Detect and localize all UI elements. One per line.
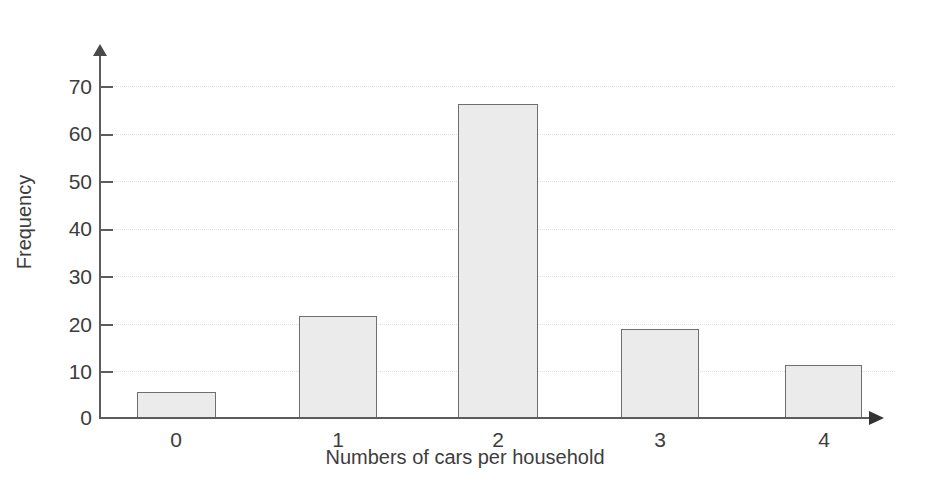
y-tick-label-20: 20 [32,314,92,335]
arrow-up-icon [93,44,107,56]
y-tick-label-10: 10 [32,361,92,382]
y-axis-line [99,52,101,419]
y-tick-30 [101,276,113,278]
y-tick-50 [101,181,113,183]
bar-1 [299,316,377,418]
y-tick-label-0: 0 [32,407,92,428]
x-axis-title: Numbers of cars per household [0,445,930,469]
y-tick-40 [101,229,113,231]
gridline-70 [100,86,895,87]
bar-4 [785,365,862,418]
y-tick-label-30: 30 [32,266,92,287]
bar-3 [621,329,699,418]
y-tick-0 [101,417,113,419]
y-tick-label-50: 50 [32,171,92,192]
arrow-right-icon [869,411,884,425]
y-tick-label-60: 60 [32,123,92,144]
y-tick-70 [101,86,113,88]
x-axis-line [99,417,875,419]
bar-2 [458,104,538,418]
y-tick-60 [101,134,113,136]
bar-0 [137,392,216,418]
y-tick-10 [101,371,113,373]
bar-chart: 0 10 20 30 40 50 60 70 0 1 2 3 4 Numbers… [0,0,930,497]
y-axis-title: Frequency [14,162,34,282]
y-tick-20 [101,324,113,326]
plot-area: 0 10 20 30 40 50 60 70 0 1 2 3 4 Numbers… [0,0,930,497]
y-tick-label-70: 70 [32,76,92,97]
y-tick-label-40: 40 [32,218,92,239]
